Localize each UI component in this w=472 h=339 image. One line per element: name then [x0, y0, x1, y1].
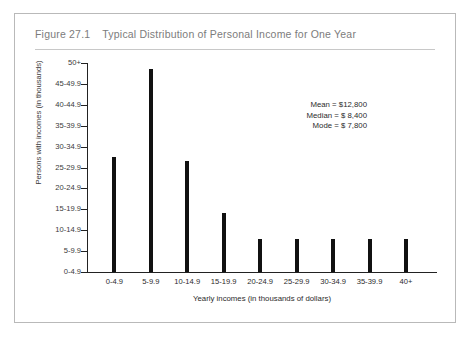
bar [149, 69, 153, 272]
y-axis-tick-mark [81, 147, 87, 148]
bar [222, 213, 226, 272]
bar [331, 239, 335, 272]
figure-frame: Figure 27.1Typical Distribution of Perso… [14, 13, 456, 323]
y-axis-tick: 5-9.9 [15, 246, 81, 256]
y-axis-tick-mark [81, 188, 87, 189]
y-axis-title: Persons with incomes (in thousands) [34, 38, 43, 208]
y-axis-tick: 40-44.9 [15, 100, 81, 110]
bar [258, 239, 262, 272]
y-axis-tick-mark [81, 126, 87, 127]
y-axis-tick-label: 10-14.9 [33, 225, 81, 234]
y-axis-tick: 35-39.9 [15, 121, 81, 131]
y-axis-tick: 25-29.9 [15, 163, 81, 173]
y-axis-tick: 20-24.9 [15, 183, 81, 193]
bar [295, 239, 299, 272]
y-axis-tick: 50+ [15, 58, 81, 68]
y-axis-tick: 0-4.9 [15, 267, 81, 277]
y-axis-line [87, 63, 88, 273]
y-axis-tick-mark [81, 63, 87, 64]
x-axis-tick-label: 40+ [379, 277, 433, 286]
y-axis-tick: 30-34.9 [15, 142, 81, 152]
y-axis-tick-mark [81, 84, 87, 85]
mean-value: Mean = $12,800 [243, 100, 367, 111]
y-axis-tick-mark [81, 168, 87, 169]
y-axis-tick-mark [81, 251, 87, 252]
bar [185, 161, 189, 272]
mode-value: Mode = $ 7,800 [243, 121, 367, 132]
y-axis-tick: 15-19.9 [15, 204, 81, 214]
y-axis-tick-label: 0-4.9 [33, 267, 81, 276]
x-axis-line [87, 272, 437, 273]
y-axis-tick-mark [81, 230, 87, 231]
statistics-annotation: Mean = $12,800 Median = $ 8,400 Mode = $… [243, 100, 367, 132]
y-axis-tick-label: 5-9.9 [33, 246, 81, 255]
bar [404, 239, 408, 272]
bar [112, 157, 116, 272]
y-axis-tick: 10-14.9 [15, 225, 81, 235]
y-axis-tick-mark [81, 105, 87, 106]
median-value: Median = $ 8,400 [243, 111, 367, 122]
chart-plot-area: 0-4.95-9.910-14.915-19.920-24.925-29.930… [15, 14, 457, 324]
x-axis-title: Yearly incomes (in thousands of dollars) [87, 294, 437, 303]
y-axis-tick-mark [81, 272, 87, 273]
y-axis-tick-mark [81, 209, 87, 210]
bar [368, 239, 372, 272]
y-axis-tick: 45-49.9 [15, 79, 81, 89]
